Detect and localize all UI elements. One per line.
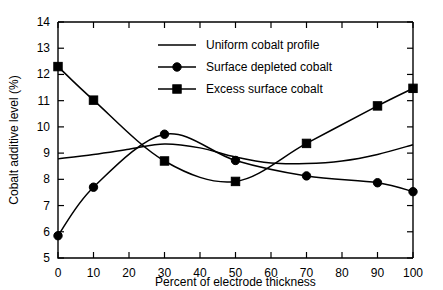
legend-label-1: Surface depleted cobalt — [206, 60, 333, 74]
data-point-circle — [160, 130, 168, 138]
data-point-square — [409, 84, 417, 92]
axis-frame-left-bottom — [58, 22, 413, 258]
y-tick-label: 6 — [43, 225, 50, 239]
y-tick-label: 7 — [43, 199, 50, 213]
y-tick-label: 10 — [37, 120, 51, 134]
x-tick-label: 80 — [335, 266, 349, 280]
x-tick-label: 20 — [122, 266, 136, 280]
data-point-square — [160, 157, 168, 165]
x-tick-label: 0 — [55, 266, 62, 280]
data-point-circle — [302, 172, 310, 180]
data-point-circle — [373, 179, 381, 187]
y-tick-label: 14 — [37, 15, 51, 29]
y-tick-label: 13 — [37, 41, 51, 55]
legend-label-0: Uniform cobalt profile — [206, 38, 320, 52]
data-point-circle — [409, 187, 417, 195]
plot-area: 5678910111213140102030405060708090100Per… — [7, 15, 423, 289]
x-tick-label: 100 — [403, 266, 423, 280]
y-tick-label: 9 — [43, 146, 50, 160]
data-point-square — [231, 177, 239, 185]
y-axis-title: Cobalt additive level (%) — [7, 75, 21, 204]
y-tick-label: 11 — [38, 94, 51, 108]
x-axis-title: Percent of electrode thickness — [155, 275, 316, 289]
x-tick-label: 10 — [87, 266, 101, 280]
y-tick-label: 8 — [43, 172, 50, 186]
cobalt-additive-level-chart: 5678910111213140102030405060708090100Per… — [0, 0, 443, 290]
data-point-circle — [54, 232, 62, 240]
legend-marker-circle — [173, 63, 181, 71]
y-tick-label: 5 — [43, 251, 50, 265]
legend-marker-square — [173, 85, 181, 93]
data-point-circle — [231, 156, 239, 164]
y-tick-label: 12 — [37, 67, 51, 81]
data-point-square — [89, 96, 97, 104]
legend-label-2: Excess surface cobalt — [206, 82, 323, 96]
data-point-square — [54, 62, 62, 70]
x-tick-label: 90 — [371, 266, 385, 280]
data-point-square — [302, 139, 310, 147]
chart-container: 5678910111213140102030405060708090100Per… — [0, 0, 443, 290]
data-point-circle — [89, 183, 97, 191]
data-point-square — [373, 102, 381, 110]
